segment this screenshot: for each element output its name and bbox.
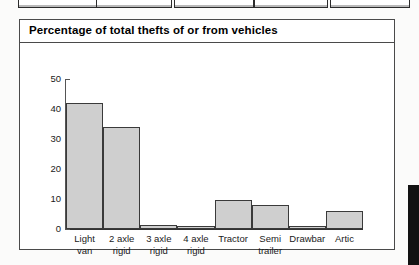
y-tick-label: 10 [50,193,61,204]
bar-slot [326,79,363,229]
bar-semi-trailer[interactable] [252,205,289,229]
top-boxes-strip [0,0,419,12]
y-tick-label: 30 [50,133,61,144]
x-label-line: trailer [246,245,295,257]
bar-3-axle-rigid[interactable] [140,225,177,230]
panel-title-bar: Percentage of total thefts of or from ve… [20,20,394,43]
x-label-line: Artic [320,233,369,245]
plot-area: 01020304050 Lightvan2 axlerigid3 axlerig… [20,43,394,250]
bar-slot [177,79,214,229]
bar-light-van[interactable] [66,103,103,229]
x-label-line: rigid [171,245,220,257]
top-box-2 [96,0,172,8]
top-box-5 [330,0,410,8]
y-tick-label: 40 [50,103,61,114]
bar-drawbar[interactable] [289,226,326,229]
x-axis-labels: Lightvan2 axlerigid3 axlerigid4 axlerigi… [66,233,363,265]
page-title: Percentage of total thefts of or from ve… [29,24,278,36]
x-axis-line [65,229,363,230]
bar-slot [289,79,326,229]
bar-tractor[interactable] [215,200,252,229]
bar-slot [103,79,140,229]
y-tick-label: 50 [50,73,61,84]
bar-slot [215,79,252,229]
y-tick-label: 20 [50,163,61,174]
page-edge-artifact [408,185,419,265]
bar-artic[interactable] [326,211,363,229]
y-tick-0: 0 [65,229,69,230]
bar-series [66,79,363,229]
bar-slot [66,79,103,229]
bar-4-axle-rigid[interactable] [177,226,214,229]
top-box-1 [18,0,108,8]
y-tick-mark [65,229,70,230]
top-box-3 [174,0,254,8]
chart-panel: Percentage of total thefts of or from ve… [19,19,395,250]
bar-2-axle-rigid[interactable] [103,127,140,229]
bar-slot [252,79,289,229]
bar-slot [140,79,177,229]
x-label-artic: Artic [320,233,369,245]
top-box-4 [254,0,328,8]
